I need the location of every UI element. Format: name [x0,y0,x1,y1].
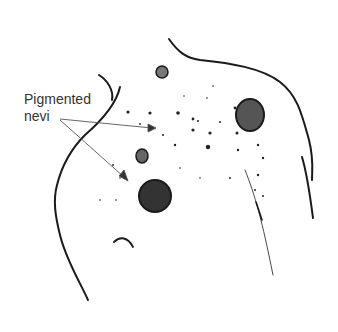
body-left-outline [55,87,120,300]
clavicle-arc [114,238,133,247]
arrowhead-1 [148,124,156,132]
nevus-middle [136,149,148,163]
arrowhead-2 [119,170,128,181]
chest-drawing [0,0,338,332]
speckles [99,85,264,201]
neck-curve [99,75,112,100]
sternum-line [245,170,273,275]
arrow-line-1 [60,119,152,128]
nevus-lower-large [139,180,171,212]
sternum-line-2 [256,202,262,220]
nevi [136,66,264,212]
nevus-right-large [236,99,264,131]
label-pigmented: Pigmented [24,91,91,107]
nevus-top [156,66,168,78]
label-nevi: nevi [24,108,50,124]
